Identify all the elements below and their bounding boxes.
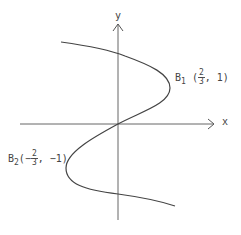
diagram-canvas — [0, 0, 241, 235]
point-label-b1: B1 (23, 1) — [175, 69, 229, 86]
x-axis-label: x — [222, 116, 228, 127]
point-label-b2: B2(−23, −1) — [8, 150, 68, 167]
y-axis-label: y — [115, 10, 121, 21]
